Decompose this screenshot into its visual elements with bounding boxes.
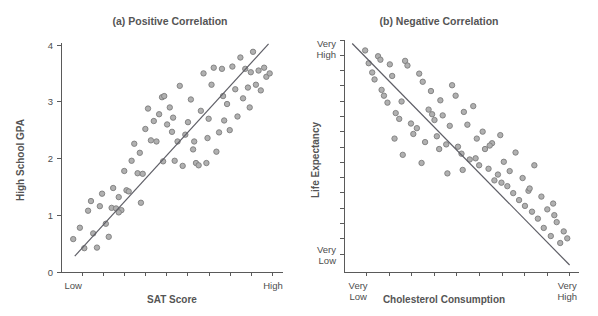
data-point — [379, 87, 384, 92]
data-point — [156, 112, 161, 117]
data-point — [474, 136, 479, 141]
data-point — [167, 105, 172, 110]
data-point — [535, 216, 540, 221]
y-axis-title-b: Life Expectancy — [310, 121, 321, 198]
data-point — [422, 139, 427, 144]
data-point — [393, 110, 398, 115]
data-point — [389, 73, 394, 78]
data-point — [170, 115, 175, 120]
data-point — [201, 71, 206, 76]
scatter-plot-b: (b) Negative Correlation Life Expectancy… — [299, 0, 598, 316]
data-point — [140, 171, 145, 176]
data-point — [138, 200, 143, 205]
data-point — [211, 65, 216, 70]
chart-title-a: (a) Positive Correlation — [113, 15, 228, 27]
data-point — [240, 96, 245, 101]
x-end-label-b: Very — [349, 280, 368, 291]
x-end-label-b: Very — [558, 280, 577, 291]
data-point — [465, 122, 470, 127]
axes-a — [61, 43, 283, 272]
data-point — [498, 132, 503, 137]
x-end-label-b: Low — [349, 291, 367, 302]
data-point — [548, 233, 553, 238]
data-point — [256, 68, 261, 73]
data-point — [110, 185, 115, 190]
data-point — [397, 116, 402, 121]
data-point — [362, 48, 367, 53]
data-point — [429, 112, 434, 117]
data-point — [545, 207, 550, 212]
data-point — [169, 129, 174, 134]
data-point — [495, 172, 500, 177]
y-tick-label-a: 4 — [48, 40, 53, 51]
data-point — [227, 127, 232, 132]
data-point — [492, 178, 497, 183]
panel-positive-correlation: (a) Positive Correlation High School GPA… — [0, 0, 299, 316]
data-point — [449, 83, 454, 88]
data-point — [476, 163, 481, 168]
trend-line-b — [352, 43, 569, 265]
data-point — [461, 109, 466, 114]
scatter-plot-a: (a) Positive Correlation High School GPA… — [0, 0, 299, 316]
data-point — [378, 57, 383, 62]
data-point — [417, 71, 422, 76]
data-point — [480, 129, 485, 134]
data-point — [162, 93, 167, 98]
data-point — [565, 236, 570, 241]
data-point — [392, 136, 397, 141]
data-point — [99, 191, 104, 196]
data-point — [558, 240, 563, 245]
x-tick-labels-a: LowHigh — [64, 280, 282, 291]
data-point — [85, 208, 90, 213]
data-point — [414, 125, 419, 130]
data-point — [552, 212, 557, 217]
data-point — [436, 146, 441, 151]
data-point — [135, 171, 140, 176]
data-point — [447, 123, 452, 128]
data-point — [405, 63, 410, 68]
data-point — [507, 168, 512, 173]
data-point — [411, 131, 416, 136]
data-point — [261, 65, 266, 70]
data-point — [148, 138, 153, 143]
data-point — [444, 142, 449, 147]
data-point — [154, 139, 159, 144]
correlation-figure: (a) Positive Correlation High School GPA… — [0, 0, 598, 316]
data-point — [419, 160, 424, 165]
data-point — [381, 93, 386, 98]
data-points-b — [362, 48, 569, 246]
data-point — [473, 156, 478, 161]
data-point — [247, 105, 252, 110]
data-point — [245, 85, 250, 90]
x-axis-title-a: SAT Score — [147, 294, 197, 305]
data-point — [209, 82, 214, 87]
data-point — [428, 88, 433, 93]
data-point — [224, 101, 229, 106]
data-point — [221, 118, 226, 123]
data-point — [532, 163, 537, 168]
data-point — [440, 113, 445, 118]
y-end-label-b: High — [316, 49, 336, 60]
data-point — [77, 225, 82, 230]
data-point — [366, 61, 371, 66]
data-point — [434, 134, 439, 139]
data-point — [129, 158, 134, 163]
data-point — [233, 87, 238, 92]
data-point — [190, 147, 195, 152]
data-point — [230, 64, 235, 69]
y-tick-labels-a: 01234 — [48, 40, 53, 278]
data-point — [471, 103, 476, 108]
data-point — [151, 118, 156, 123]
data-point — [235, 114, 240, 119]
data-point — [267, 71, 272, 76]
data-point — [106, 234, 111, 239]
data-point — [505, 183, 510, 188]
y-tick-label-a: 1 — [48, 210, 53, 221]
data-point — [137, 150, 142, 155]
data-point — [180, 163, 185, 168]
data-point — [177, 83, 182, 88]
data-point — [445, 171, 450, 176]
y-axis-title-a: High School GPA — [15, 119, 26, 201]
data-point — [132, 141, 137, 146]
data-point — [426, 107, 431, 112]
